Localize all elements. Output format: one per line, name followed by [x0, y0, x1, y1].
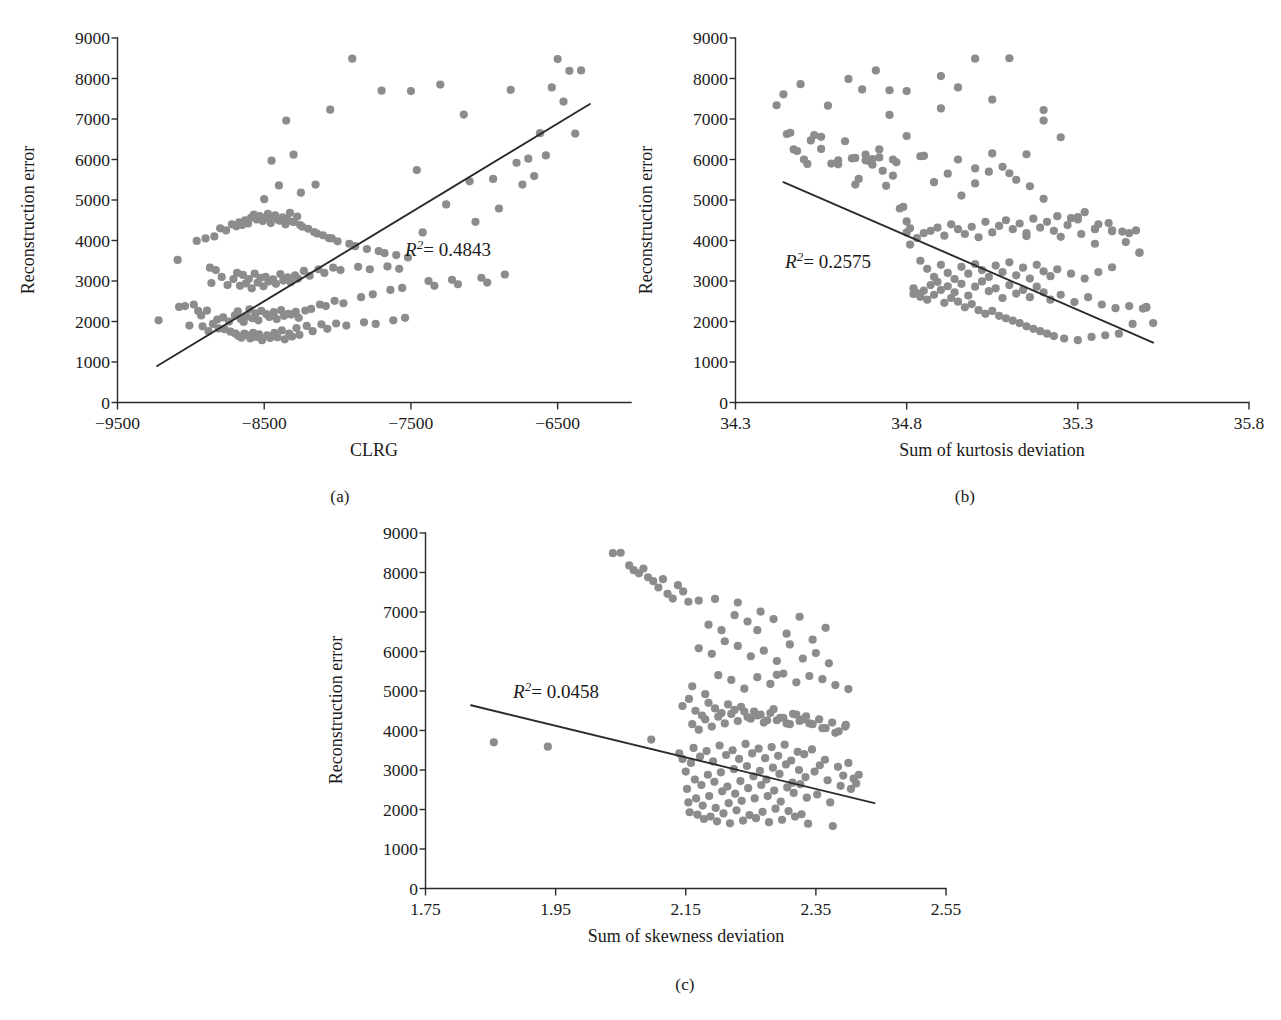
data-point	[783, 630, 791, 638]
panel-b-x-axis-title: Sum of kurtosis deviation	[899, 440, 1085, 460]
data-point	[471, 218, 479, 226]
data-point	[781, 741, 789, 749]
panel-a-points	[154, 55, 585, 345]
data-point	[684, 598, 692, 606]
data-point	[507, 86, 515, 94]
data-point	[753, 673, 761, 681]
data-point	[769, 615, 777, 623]
panel-a-y-tick-label: 7000	[75, 109, 110, 129]
data-point	[495, 204, 503, 212]
data-point	[744, 784, 752, 792]
data-point	[1067, 214, 1075, 222]
data-point	[784, 807, 792, 815]
data-point	[704, 699, 712, 707]
data-point	[1012, 176, 1020, 184]
data-point	[852, 779, 860, 787]
data-point	[1026, 293, 1034, 301]
data-point	[885, 111, 893, 119]
data-point	[1094, 268, 1102, 276]
data-point	[776, 714, 784, 722]
data-point	[565, 67, 573, 75]
data-point	[719, 809, 727, 817]
data-point	[844, 685, 852, 693]
panel-a-r2-value: = 0.4843	[423, 239, 491, 260]
panel-c-caption: (c)	[645, 975, 725, 995]
data-point	[395, 265, 403, 273]
data-point	[542, 151, 550, 159]
data-point	[363, 245, 371, 253]
data-point	[307, 305, 315, 313]
data-point	[964, 291, 972, 299]
data-point	[769, 705, 777, 713]
data-point	[937, 72, 945, 80]
data-point	[944, 269, 952, 277]
data-point	[954, 298, 962, 306]
data-point	[692, 794, 700, 802]
panel-b-y-axis-title: Reconstruction error	[636, 146, 656, 294]
panel-c-r2-symbol: R	[512, 681, 525, 702]
data-point	[954, 225, 962, 233]
panel-c-r2-value: = 0.0458	[531, 681, 599, 702]
data-point	[698, 711, 706, 719]
data-point	[824, 102, 832, 110]
data-point	[704, 771, 712, 779]
data-point	[248, 284, 256, 292]
data-point	[734, 717, 742, 725]
data-point	[717, 709, 725, 717]
data-point	[386, 286, 394, 294]
data-point	[1057, 291, 1065, 299]
data-point	[981, 218, 989, 226]
data-point	[906, 240, 914, 248]
data-point	[682, 767, 690, 775]
data-point	[348, 55, 356, 63]
data-point	[1050, 227, 1058, 235]
panel-b-svg: 0100020003000400050006000700080009000 34…	[620, 0, 1281, 470]
data-point	[734, 598, 742, 606]
panel-b-y-tick-label: 4000	[693, 231, 728, 251]
data-point	[659, 575, 667, 583]
data-point	[717, 768, 725, 776]
data-point	[805, 672, 813, 680]
panel-a-y-tick-label: 3000	[75, 271, 110, 291]
data-point	[822, 724, 830, 732]
data-point	[1033, 283, 1041, 291]
data-point	[201, 234, 209, 242]
data-point	[992, 284, 1000, 292]
data-point	[1149, 319, 1157, 327]
data-point	[841, 137, 849, 145]
data-point	[760, 647, 768, 655]
data-point	[777, 798, 785, 806]
data-point	[774, 752, 782, 760]
data-point	[796, 80, 804, 88]
data-point	[793, 147, 801, 155]
data-point	[559, 97, 567, 105]
data-point	[1002, 216, 1010, 224]
panel-b-y-tick-label: 9000	[693, 28, 728, 48]
data-point	[804, 820, 812, 828]
data-point	[254, 316, 262, 324]
data-point	[490, 738, 498, 746]
panel-b-x-tick-label: 34.3	[720, 413, 751, 433]
data-point	[332, 319, 340, 327]
data-point	[792, 678, 800, 686]
panel-b-y-tick-label: 8000	[693, 69, 728, 89]
data-point	[783, 719, 791, 727]
data-point	[879, 167, 887, 175]
data-point	[786, 640, 794, 648]
data-point	[203, 306, 211, 314]
panel-c-y-tick-label: 2000	[383, 800, 418, 820]
data-point	[1005, 54, 1013, 62]
data-point	[518, 181, 526, 189]
data-point	[1125, 229, 1133, 237]
data-point	[512, 159, 520, 167]
data-point	[755, 745, 763, 753]
panel-c-x-tick-label: 2.35	[801, 899, 832, 919]
data-point	[1053, 265, 1061, 273]
data-point	[1118, 227, 1126, 235]
data-point	[752, 814, 760, 822]
data-point	[320, 269, 328, 277]
data-point	[1050, 332, 1058, 340]
data-point	[383, 262, 391, 270]
data-point	[430, 282, 438, 290]
data-point	[821, 756, 829, 764]
